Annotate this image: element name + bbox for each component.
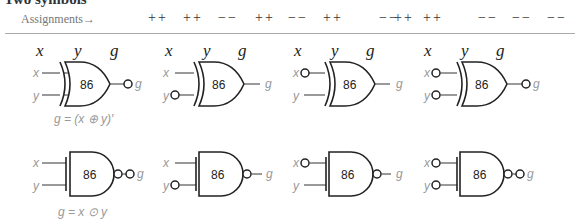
inversion-bubble-icon (171, 91, 179, 99)
svg-text:y: y (32, 179, 40, 193)
inversion-bubble-icon (301, 69, 309, 77)
xnor-nand-gate-4: 86 x y g (423, 152, 534, 196)
svg-text:g: g (396, 167, 403, 181)
inversion-bubble-icon (243, 170, 251, 178)
inversion-bubble-icon (432, 91, 440, 99)
svg-text:x: x (423, 156, 431, 170)
svg-text:g: g (527, 167, 534, 181)
svg-text:y: y (32, 89, 40, 103)
svg-text:x: x (32, 66, 40, 80)
svg-text:g: g (135, 77, 142, 91)
svg-text:x: x (32, 156, 40, 170)
svg-text:x: x (292, 66, 300, 80)
inversion-bubble-icon (171, 181, 179, 189)
xnor-nand-gate-1: 86 x y g (32, 152, 144, 196)
inversion-bubble-icon (301, 159, 309, 167)
svg-text:y: y (423, 179, 431, 193)
svg-text:g: g (533, 77, 540, 91)
inversion-bubble-icon (373, 170, 381, 178)
svg-text:g: g (266, 167, 273, 181)
xor-row-equation: g = (x ⊕ y)′ (54, 112, 113, 126)
xnor-gate-4: 86 x y g (423, 62, 540, 106)
svg-text:x: x (162, 156, 170, 170)
svg-text:86: 86 (475, 78, 489, 92)
inversion-bubble-icon (432, 181, 440, 189)
svg-text:x: x (162, 66, 170, 80)
xnor-nand-gate-2: 86 x y g (162, 152, 273, 196)
svg-text:x: x (423, 66, 431, 80)
svg-text:g: g (265, 77, 272, 91)
inversion-bubble-icon (522, 80, 530, 88)
svg-text:y: y (292, 89, 300, 103)
inversion-bubble-icon (432, 69, 440, 77)
inversion-bubble-icon (504, 170, 512, 178)
svg-text:86: 86 (83, 168, 97, 182)
xnor-gate-1: 86 x y g (32, 62, 142, 106)
xnor-gate-2: 86 x y g (162, 62, 272, 106)
svg-text:86: 86 (212, 78, 226, 92)
inversion-bubble-icon (516, 170, 524, 178)
svg-text:y: y (423, 89, 431, 103)
xnor-nand-gate-3: 86 x y g (292, 152, 403, 196)
inversion-bubble-icon (126, 170, 134, 178)
svg-text:86: 86 (341, 168, 355, 182)
svg-text:g: g (137, 167, 144, 181)
xor-input-arc (60, 62, 65, 106)
xnor-row-equation: g = x ⊙ y (58, 205, 107, 219)
inversion-bubble-icon (114, 170, 122, 178)
gate-diagram: 86 x y g 86 x y g 86 x y g (0, 0, 575, 221)
xnor-gate-3: 86 x y g (292, 62, 403, 106)
svg-text:86: 86 (80, 78, 94, 92)
svg-text:g: g (396, 77, 403, 91)
svg-text:86: 86 (473, 168, 487, 182)
svg-text:y: y (162, 89, 170, 103)
svg-text:86: 86 (343, 78, 357, 92)
inversion-bubble-icon (124, 80, 132, 88)
svg-text:x: x (292, 156, 300, 170)
svg-text:y: y (292, 179, 300, 193)
svg-text:y: y (162, 179, 170, 193)
inversion-bubble-icon (432, 159, 440, 167)
svg-text:86: 86 (211, 168, 225, 182)
